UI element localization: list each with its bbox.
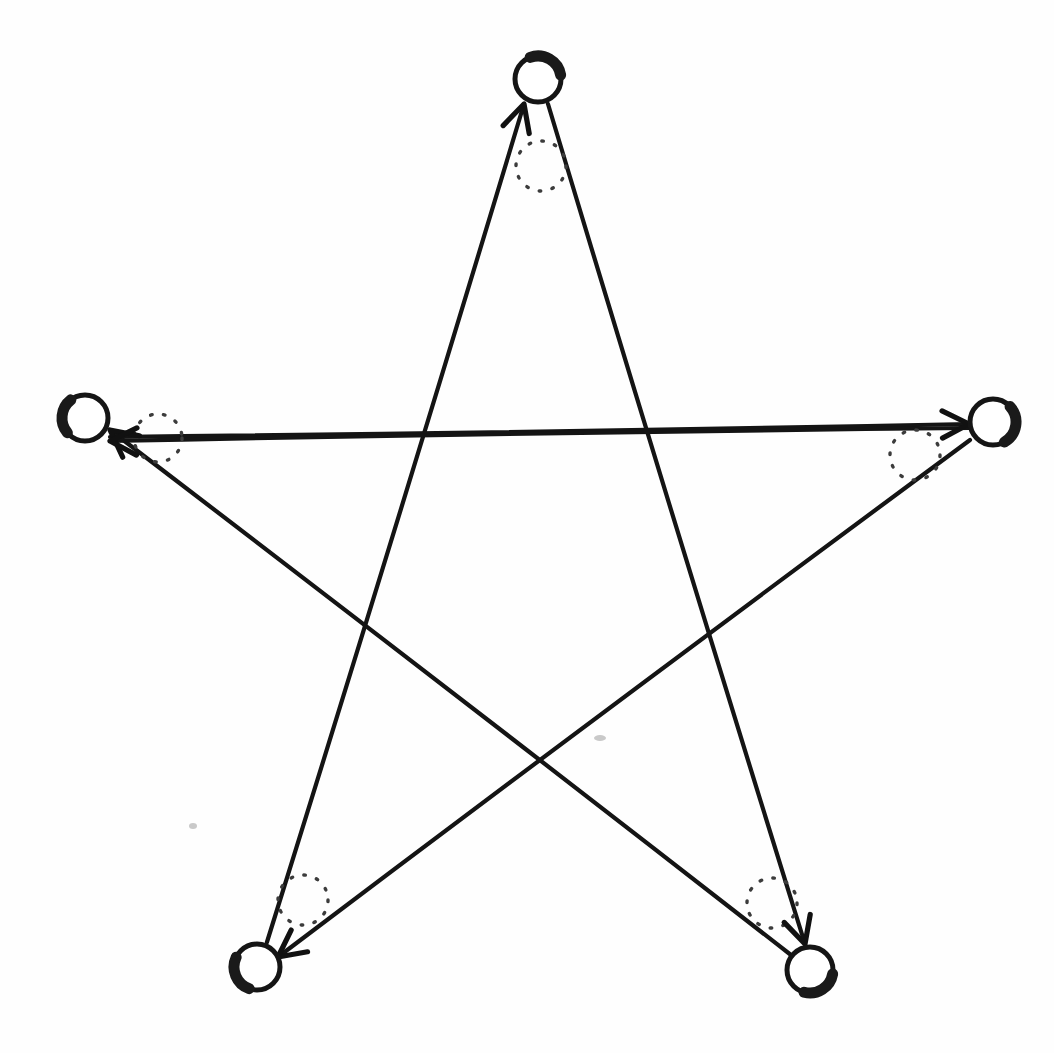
node-bottom-left[interactable] — [234, 944, 280, 990]
diagram-canvas — [0, 0, 1054, 1053]
paper-speck-0 — [594, 735, 606, 741]
node-top[interactable] — [515, 56, 561, 102]
node-left[interactable] — [62, 395, 108, 441]
node-bottom-right[interactable] — [787, 947, 833, 993]
pentagram-diagram — [0, 0, 1054, 1053]
node-right[interactable] — [970, 399, 1016, 445]
canvas-background — [0, 0, 1054, 1053]
paper-speck-1 — [189, 823, 197, 829]
